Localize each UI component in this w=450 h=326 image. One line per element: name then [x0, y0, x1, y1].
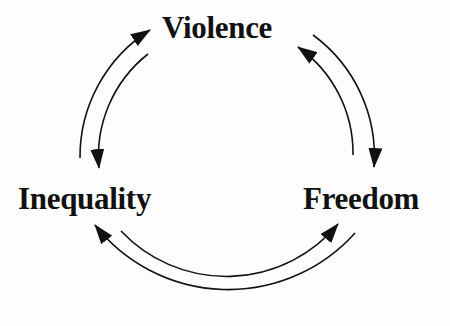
edge-freedom-to-violence — [298, 47, 353, 155]
node-violence: Violence — [162, 12, 272, 43]
edge-violence-to-freedom — [313, 35, 374, 167]
edge-violence-to-inequality — [98, 54, 148, 168]
cycle-diagram: Violence Inequality Freedom — [0, 0, 450, 326]
edge-freedom-to-inequality — [95, 225, 355, 290]
edge-inequality-to-freedom — [121, 224, 338, 276]
arrow-layer — [0, 0, 450, 326]
node-freedom: Freedom — [303, 183, 419, 214]
node-inequality: Inequality — [18, 183, 151, 214]
